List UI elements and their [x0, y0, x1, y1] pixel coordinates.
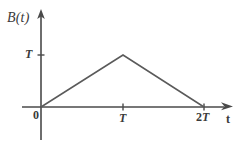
- x-axis-label: t: [226, 113, 230, 125]
- y-axis-label: B(t): [7, 11, 30, 25]
- origin-label: 0: [33, 109, 39, 121]
- y-tick-label-T: T: [25, 48, 32, 60]
- signal-curve-B-of-t: [41, 55, 204, 107]
- x-tick-label-2T: 2T: [196, 111, 209, 123]
- figure-canvas: B(t) t 0 T T 2T: [0, 0, 246, 146]
- x-tick-2T-symbol: T: [202, 110, 209, 124]
- x-tick-label-T: T: [119, 112, 126, 124]
